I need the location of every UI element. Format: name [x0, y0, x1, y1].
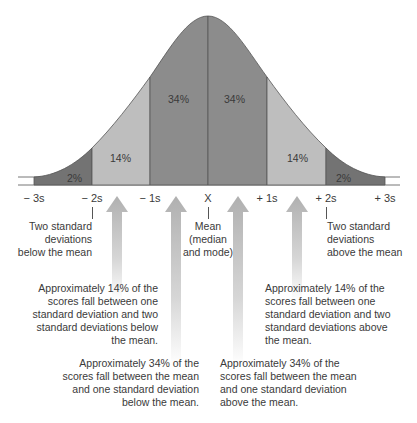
axis-minus-2s: − 2s — [81, 192, 102, 204]
axis-minus-3s: − 3s — [23, 192, 44, 204]
axis-plus-3s: + 3s — [374, 192, 395, 204]
axis-plus-1s: + 1s — [256, 192, 277, 204]
annotation-right-14: Approximately 14% of the scores fall bet… — [265, 282, 391, 347]
annotation-left-34: Approximately 34% of the scores fall bet… — [62, 357, 199, 409]
label-left-14: 14% — [110, 152, 131, 165]
annotation-left-14: Approximately 14% of the scores fall bet… — [32, 282, 158, 347]
label-right-tail: 2% — [336, 172, 351, 185]
leader-plus-2s — [326, 207, 327, 219]
annotation-above-two-sd: Two standard deviations above the mean — [327, 220, 402, 259]
annotation-mean: Mean (median and mode) — [183, 220, 233, 259]
region-right-14 — [267, 77, 326, 185]
label-right-34: 34% — [224, 93, 245, 106]
label-right-14: 14% — [287, 152, 308, 165]
region-left-14 — [92, 77, 150, 185]
label-left-34: 34% — [168, 93, 189, 106]
leader-minus-2s — [92, 207, 93, 219]
axis-plus-2s: + 2s — [315, 192, 336, 204]
annotation-right-34: Approximately 34% of the scores fall bet… — [220, 357, 357, 409]
axis-mean: X — [204, 192, 211, 204]
label-left-tail: 2% — [67, 172, 82, 185]
axis-minus-1s: − 1s — [139, 192, 160, 204]
leader-mean — [208, 207, 209, 219]
annotation-below-two-sd: Two standard deviations below the mean — [18, 220, 92, 259]
region-left-tail — [34, 148, 92, 185]
region-right-tail — [326, 148, 385, 185]
